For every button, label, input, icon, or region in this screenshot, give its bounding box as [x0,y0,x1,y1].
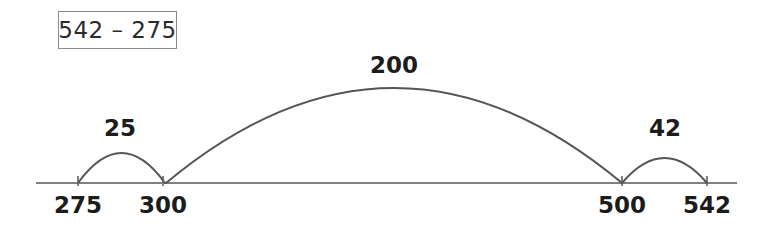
tick-label: 542 [683,192,731,218]
jump-arc-group [78,88,707,183]
jump-arc [78,153,165,183]
tick-label: 300 [139,192,187,218]
jump-label: 200 [370,52,418,78]
jump-label: 42 [649,115,681,141]
tick-label: 275 [54,192,102,218]
jump-arc [622,158,707,183]
worksheet-canvas: 542 – 275 2753005005422520042 [0,0,769,249]
jump-label: 25 [104,115,136,141]
tick-label: 500 [598,192,646,218]
jump-arc [166,88,622,183]
